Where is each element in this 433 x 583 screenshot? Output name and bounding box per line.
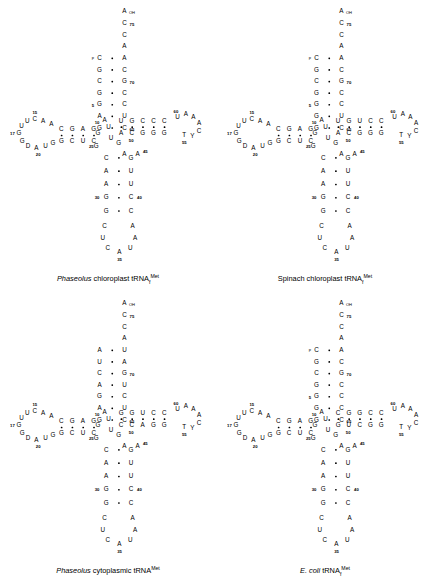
d-loop-base: U bbox=[25, 410, 30, 416]
base-pair-dot bbox=[118, 210, 119, 211]
anticodon-stem-base: U bbox=[129, 473, 134, 479]
junction-base: G bbox=[94, 435, 99, 441]
base-pair-dot bbox=[111, 361, 112, 362]
position-label: 55 bbox=[399, 433, 404, 437]
base-pair-dot bbox=[118, 184, 119, 185]
acceptor-5prime-base: G bbox=[314, 382, 319, 388]
position-label: 15 bbox=[33, 111, 38, 115]
base-pair-dot bbox=[328, 127, 329, 128]
position-label: 75 bbox=[130, 23, 135, 27]
t-loop-base: A bbox=[184, 111, 188, 117]
t-stem-base: A bbox=[336, 130, 340, 136]
t-loop-base: A bbox=[408, 406, 412, 412]
t-loop-base: C bbox=[414, 420, 419, 426]
base-pair-dot bbox=[328, 57, 329, 58]
t-stem-base: G bbox=[119, 410, 124, 416]
position-label: 17 bbox=[10, 132, 15, 136]
anticodon-stem-base: C bbox=[129, 194, 134, 200]
base-pair-dot bbox=[111, 419, 112, 420]
d-stem-base: A bbox=[298, 418, 302, 424]
t-loop-base: T bbox=[399, 132, 403, 138]
position-label: 30 bbox=[312, 195, 317, 199]
base-pair-dot bbox=[335, 489, 336, 490]
anticodon-stem-base: C bbox=[129, 500, 134, 506]
anticodon-loop-base: A bbox=[350, 527, 354, 533]
anticodon-loop-base: C bbox=[106, 245, 111, 251]
base-pair-dot bbox=[310, 135, 311, 136]
d-loop-base: G bbox=[268, 140, 273, 146]
anticodon-loop-base: C bbox=[102, 515, 107, 521]
d-loop-base: C bbox=[249, 116, 254, 122]
position-label: 75 bbox=[347, 315, 352, 319]
panel-caption: E. coli tRNAfMet bbox=[217, 564, 433, 579]
acceptor-3prime-base: G bbox=[122, 78, 127, 84]
base-pair-dot bbox=[111, 127, 112, 128]
base-pair-dot bbox=[328, 408, 329, 409]
base-pair-dot bbox=[153, 418, 154, 419]
base-pair-dot bbox=[111, 104, 112, 105]
position-label: 55 bbox=[182, 141, 187, 145]
d-stem-base: G bbox=[276, 138, 281, 144]
position-label: 45 bbox=[143, 442, 148, 446]
acceptor-3prime-base: A bbox=[122, 359, 126, 365]
d-stem-base: C bbox=[287, 430, 292, 436]
position-label: 50 bbox=[129, 431, 134, 435]
d-loop-base: U bbox=[25, 118, 30, 124]
base-pair-dot bbox=[111, 81, 112, 82]
t-stem-base: G bbox=[151, 422, 156, 428]
acceptor-5prime-base: C bbox=[97, 78, 102, 84]
base-pair-dot bbox=[142, 418, 143, 419]
anticodon-loop-base: A bbox=[350, 235, 354, 241]
position-label: 45 bbox=[360, 442, 365, 446]
d-stem-base: G bbox=[59, 138, 64, 144]
variable-loop-base: A bbox=[353, 151, 357, 157]
base-pair-dot bbox=[289, 135, 290, 136]
t-stem-base: G bbox=[336, 422, 341, 428]
d-loop-base: U bbox=[43, 143, 48, 149]
anticodon-loop-base: A bbox=[133, 527, 137, 533]
position-label: 60 bbox=[391, 402, 396, 406]
variable-loop-base: A bbox=[122, 443, 126, 449]
base-pair-dot bbox=[328, 396, 329, 397]
t-loop-base: Y bbox=[407, 133, 411, 139]
base-pair-dot bbox=[121, 418, 122, 419]
base-pair-dot bbox=[328, 81, 329, 82]
d-stem-base: C bbox=[287, 138, 292, 144]
base-pair-dot bbox=[164, 126, 165, 127]
t-loop-base: Y bbox=[190, 133, 194, 139]
t-stem-base: G bbox=[346, 410, 351, 416]
anticodon-stem-base: C bbox=[346, 208, 351, 214]
anticodon-stem-base: G bbox=[346, 155, 351, 161]
t-loop-base: Y bbox=[190, 425, 194, 431]
position-label: 75 bbox=[347, 23, 352, 27]
anticodon-stem-base: G bbox=[104, 500, 109, 506]
base-pair-dot bbox=[310, 427, 311, 428]
d-loop-base: D bbox=[26, 143, 31, 149]
acceptor-5prime-base: U bbox=[97, 359, 102, 365]
t-loop-base: C bbox=[414, 128, 419, 134]
panel-caption: Phaseolus cytoplasmic tRNAMet bbox=[0, 564, 216, 575]
base-pair-dot bbox=[328, 116, 329, 117]
acceptor-3prime-base: C bbox=[122, 32, 127, 38]
anticodon-stem-base: C bbox=[104, 155, 109, 161]
base-pair-dot bbox=[328, 384, 329, 385]
t-stem-base: C bbox=[162, 118, 167, 124]
base-pair-dot bbox=[61, 427, 62, 428]
base-pair-dot bbox=[328, 92, 329, 93]
anticodon-loop-base: U bbox=[101, 235, 106, 241]
position-label: 35 bbox=[334, 258, 339, 262]
d-loop-base: G bbox=[237, 138, 242, 144]
base-pair-dot bbox=[118, 170, 119, 171]
modification-label: p bbox=[309, 57, 311, 61]
d-stem-base: G bbox=[287, 418, 292, 424]
position-label: 15 bbox=[250, 403, 255, 407]
position-label: 35 bbox=[334, 550, 339, 554]
anticodon-loop-base: U bbox=[345, 245, 350, 251]
anticodon-stem-base: A bbox=[321, 473, 325, 479]
position-label: OH bbox=[346, 11, 352, 15]
acceptor-5prime-base: G bbox=[97, 90, 102, 96]
d-stem-base: C bbox=[276, 418, 281, 424]
base-pair-dot bbox=[335, 170, 336, 171]
anticodon-loop-base: U bbox=[128, 537, 133, 543]
d-stem-base: G bbox=[70, 126, 75, 132]
